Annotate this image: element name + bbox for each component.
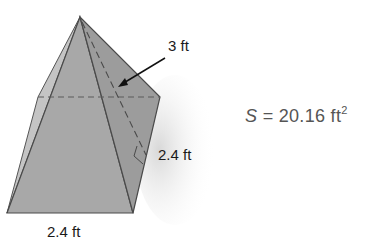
formula-variable: S	[245, 106, 257, 126]
base-side-right-label: 2.4 ft	[158, 146, 191, 163]
surface-area-formula: S = 20.16 ft2	[245, 104, 348, 127]
slant-height-label: 3 ft	[168, 37, 189, 54]
formula-exponent: 2	[341, 104, 347, 116]
formula-unit: ft	[331, 106, 342, 126]
formula-value: 20.16	[279, 106, 326, 126]
formula-equals: =	[263, 106, 274, 126]
base-side-bottom-label: 2.4 ft	[47, 223, 80, 240]
